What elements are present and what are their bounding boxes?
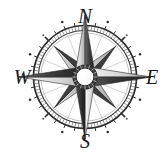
compass-rose-graphic: N E S W bbox=[0, 0, 167, 159]
hub-inner-circle bbox=[76, 68, 94, 86]
ring-dot bbox=[126, 118, 128, 120]
ring-dot bbox=[107, 131, 110, 134]
ring-dot bbox=[29, 99, 32, 102]
ring-dot bbox=[126, 34, 128, 36]
ring-dot bbox=[139, 99, 142, 102]
label-south: S bbox=[80, 130, 90, 152]
ring-dot bbox=[107, 21, 110, 24]
ring-dot bbox=[42, 118, 44, 120]
label-north: N bbox=[77, 4, 93, 28]
label-east: E bbox=[145, 66, 158, 88]
compass-hub bbox=[72, 64, 97, 89]
ring-dot bbox=[29, 53, 32, 56]
compass-rose-figure: N E S W bbox=[0, 0, 167, 159]
ring-dot bbox=[139, 53, 142, 56]
ring-dot bbox=[61, 21, 64, 24]
label-west: W bbox=[14, 66, 33, 88]
ring-dot bbox=[42, 34, 44, 36]
ring-dot bbox=[61, 131, 64, 134]
